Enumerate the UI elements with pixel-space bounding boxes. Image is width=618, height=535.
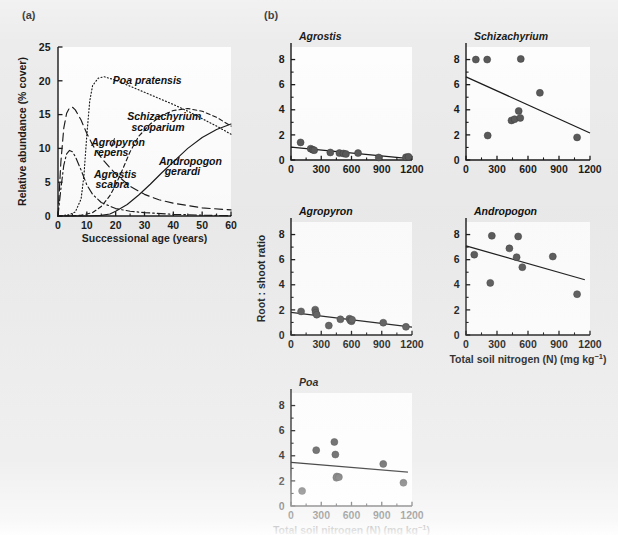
subplot-andropogon-data-point — [549, 253, 556, 260]
subplot-schizachyrium-data-point — [484, 56, 491, 63]
subplot-agrostis-data-point — [297, 139, 304, 146]
subplot-poa-ytick-label: 4 — [279, 449, 285, 461]
subplot-agrostis-plot-area — [291, 47, 412, 160]
subplot-schizachyrium-ytick-label: 4 — [454, 103, 460, 115]
subplot-andropogon-data-point — [488, 232, 495, 239]
subplot-andropogon-data-point — [515, 233, 522, 240]
subplot-agropyron-xtick-label: 900 — [373, 338, 391, 350]
panel-a-ytick-label: 20 — [39, 75, 51, 87]
subplot-schizachyrium-data-point — [472, 56, 479, 63]
subplot-agropyron-xtick-label: 300 — [312, 338, 330, 350]
subplot-poa-data-point — [380, 460, 387, 467]
panel-a-annotation-agropyron-repens-2: repens — [94, 146, 129, 158]
subplot-schizachyrium-ytick-label: 0 — [454, 154, 460, 166]
panel-a-annotation-schizachyrium-scoparium-2: scoparium — [132, 121, 185, 133]
panel-a-annotation-poa-pratensis: Poa pratensis — [113, 74, 182, 86]
subplot-agrostis-title: Agrostis — [298, 30, 342, 42]
subplot-poa-xlabel: Total soil nitrogen (N) (mg kg−1) — [273, 523, 430, 535]
subplot-agropyron-xtick-label: 0 — [288, 338, 294, 350]
subplot-schizachyrium-title: Schizachyrium — [474, 30, 548, 42]
subplot-agrostis-data-point — [327, 149, 334, 156]
subplot-poa-data-point — [332, 451, 339, 458]
panel-a-xtick-label: 20 — [110, 219, 122, 231]
subplot-schizachyrium-xtick-label: 300 — [488, 163, 506, 175]
subplot-agropyron-xtick-label: 600 — [343, 338, 361, 350]
panel-a-ytick-label: 15 — [39, 108, 51, 120]
subplot-schizachyrium-plot-area — [466, 47, 590, 160]
subplot-poa-xtick-label: 600 — [343, 509, 361, 521]
subplot-andropogon-data-point — [506, 245, 513, 252]
subplot-andropogon-data-point — [574, 291, 581, 298]
subplot-agrostis-ytick-label: 0 — [279, 154, 285, 166]
subplot-agropyron-title: Agropyron — [298, 205, 353, 217]
panel-a-xtick-label: 50 — [196, 219, 208, 231]
panel-a-annotation-andropogon-gerardi-2: gerardi — [164, 165, 202, 177]
subplot-poa-plot-area — [291, 393, 412, 506]
subplot-agropyron-data-point — [349, 316, 356, 323]
subplot-poa-ytick-label: 2 — [279, 475, 285, 487]
panel-b-label: (b) — [264, 9, 278, 21]
panel-a-xtick-label: 40 — [167, 219, 179, 231]
panel-a-xtick-label: 60 — [225, 219, 237, 231]
panel-a-ytick-label: 25 — [39, 41, 51, 53]
panel-b-ylabel: Root : shoot ratio — [255, 235, 267, 323]
subplot-andropogon-ytick-label: 8 — [454, 228, 460, 240]
subplot-agrostis-data-point — [375, 154, 382, 161]
subplot-andropogon-xtick-label: 1200 — [578, 338, 602, 350]
subplot-poa-data-point — [313, 447, 320, 454]
subplot-poa-data-point — [335, 474, 342, 481]
panel-a-ytick-label: 10 — [39, 142, 51, 154]
subplot-schizachyrium: Schizachyrium0246803006009001200 — [454, 30, 602, 175]
panel-a-ytick-label: 0 — [45, 210, 51, 222]
subplot-poa-data-point — [331, 438, 338, 445]
subplot-agrostis-xtick-label: 900 — [373, 163, 391, 175]
subplot-agropyron-ytick-label: 6 — [279, 253, 285, 265]
subplot-schizachyrium-data-point — [517, 114, 524, 121]
subplot-poa-ytick-label: 8 — [279, 399, 285, 411]
panel-a-xtick-label: 30 — [139, 219, 151, 231]
subplot-agropyron-xtick-label: 1200 — [400, 338, 424, 350]
subplot-andropogon-title: Andropogon — [473, 205, 537, 217]
subplot-andropogon-ytick-label: 0 — [454, 329, 460, 341]
subplot-agropyron-data-point — [325, 322, 332, 329]
subplot-agropyron: Agropyron0246803006009001200Root : shoot… — [255, 205, 424, 350]
subplot-andropogon-xtick-label: 300 — [488, 338, 506, 350]
subplot-schizachyrium-xtick-label: 1200 — [578, 163, 602, 175]
subplot-schizachyrium-data-point — [536, 89, 543, 96]
figure-canvas: (a)05101520250102030405060Successional a… — [0, 0, 618, 535]
subplot-agrostis-ytick-label: 6 — [279, 78, 285, 90]
subplot-agrostis-data-point — [311, 147, 318, 154]
subplot-agrostis-data-point — [342, 150, 349, 157]
subplot-agrostis-data-point — [405, 153, 412, 160]
subplot-andropogon-ytick-label: 2 — [454, 304, 460, 316]
subplot-andropogon-xtick-label: 600 — [519, 338, 537, 350]
subplot-schizachyrium-ytick-label: 8 — [454, 53, 460, 65]
subplot-agrostis-ytick-label: 8 — [279, 53, 285, 65]
subplot-andropogon: Andropogon0246803006009001200Total soil … — [449, 205, 606, 365]
subplot-agrostis-xtick-label: 1200 — [400, 163, 424, 175]
subplot-agropyron-data-point — [313, 311, 320, 318]
subplot-agrostis-xtick-label: 0 — [288, 163, 294, 175]
subplot-agropyron-data-point — [380, 319, 387, 326]
subplot-schizachyrium-data-point — [517, 55, 524, 62]
subplot-poa-xtick-label: 0 — [288, 509, 294, 521]
subplot-poa-xtick-label: 900 — [373, 509, 391, 521]
subplot-schizachyrium-data-point — [515, 108, 522, 115]
subplot-agropyron-data-point — [337, 316, 344, 323]
panel-a-label: (a) — [22, 9, 36, 21]
subplot-andropogon-xtick-label: 0 — [463, 338, 469, 350]
subplot-andropogon-ytick-label: 6 — [454, 253, 460, 265]
subplot-agrostis: Agrostis0246803006009001200 — [279, 30, 424, 175]
subplot-agropyron-data-point — [402, 323, 409, 330]
subplot-poa-data-point — [400, 479, 407, 486]
subplot-poa: Poa0246803006009001200Total soil nitroge… — [273, 376, 430, 535]
panel-a-ylabel: Relative abundance (% cover) — [16, 57, 28, 206]
panel-a-xlabel: Successional age (years) — [82, 232, 207, 244]
panel-a: (a)05101520250102030405060Successional a… — [16, 9, 237, 244]
subplot-agrostis-data-point — [355, 150, 362, 157]
subplot-schizachyrium-xtick-label: 900 — [550, 163, 568, 175]
subplot-schizachyrium-ytick-label: 6 — [454, 78, 460, 90]
subplot-andropogon-xlabel: Total soil nitrogen (N) (mg kg−1) — [449, 352, 606, 366]
subplot-schizachyrium-data-point — [574, 134, 581, 141]
subplot-agrostis-ytick-label: 4 — [279, 103, 285, 115]
